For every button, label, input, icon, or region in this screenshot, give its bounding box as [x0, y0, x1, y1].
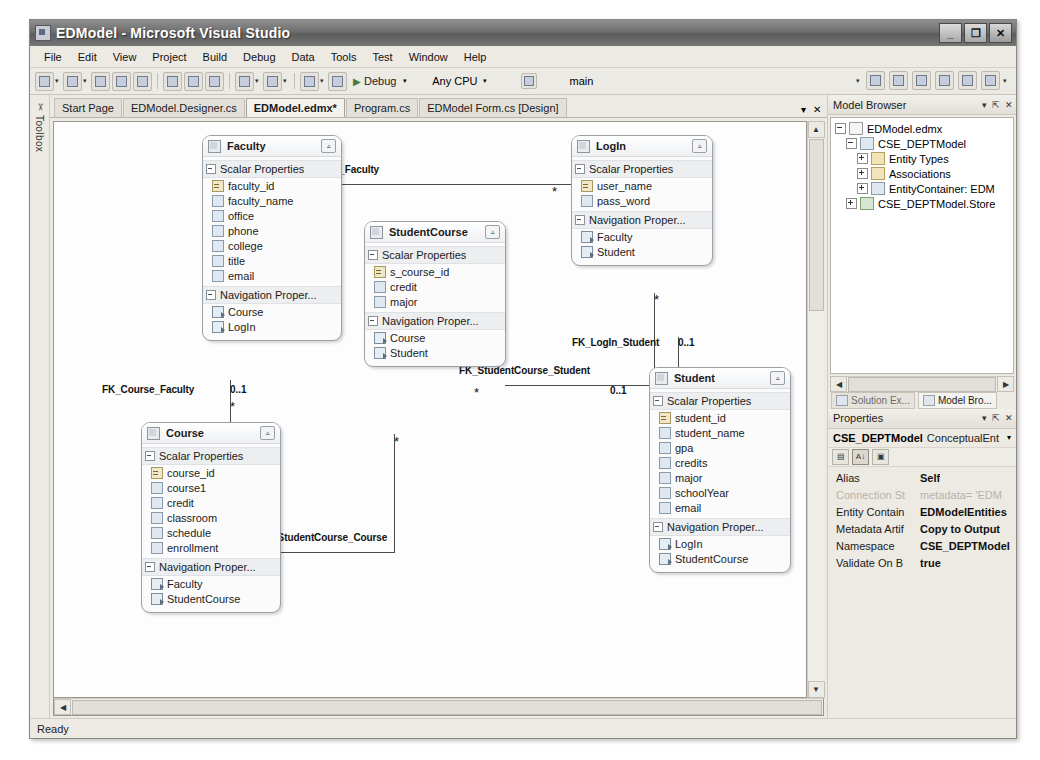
navigate-back-icon[interactable] — [300, 72, 319, 91]
close-icon[interactable]: ✕ — [1005, 100, 1013, 110]
property-value[interactable]: Copy to Output — [920, 523, 1000, 535]
chevron-left-icon[interactable]: ◀ — [830, 376, 847, 392]
menu-edit[interactable]: Edit — [70, 49, 105, 65]
scalar-property-row[interactable]: course1 — [142, 480, 280, 495]
entity-box-studentcourse[interactable]: StudentCourse▵Scalar Propertiess_course_… — [364, 221, 506, 367]
scalar-property-row[interactable]: student_id — [650, 410, 790, 425]
expand-icon[interactable] — [857, 153, 868, 164]
scalar-property-row[interactable]: title — [203, 253, 341, 268]
dock-tab-model-browser[interactable]: Model Bro... — [918, 392, 997, 409]
chevron-down-icon[interactable]: ▾ — [982, 413, 987, 423]
solution-explorer-icon[interactable] — [866, 71, 885, 90]
property-row[interactable]: NamespaceCSE_DEPTModel — [828, 538, 1016, 555]
property-pages-icon[interactable]: ▣ — [872, 449, 889, 465]
navigation-property-row[interactable]: StudentCourse — [142, 591, 280, 606]
scalar-property-row[interactable]: course_id — [142, 465, 280, 480]
collapse-icon[interactable] — [846, 138, 857, 149]
menu-test[interactable]: Test — [364, 49, 400, 65]
scalar-property-row[interactable]: student_name — [650, 425, 790, 440]
menu-tools[interactable]: Tools — [323, 49, 365, 65]
scalar-property-row[interactable]: schedule — [142, 525, 280, 540]
expand-icon[interactable] — [857, 183, 868, 194]
paste-icon[interactable] — [205, 72, 224, 91]
entity-box-login[interactable]: LogIn▵Scalar Propertiesuser_namepass_wor… — [571, 135, 713, 266]
collapse-toggle-icon[interactable] — [368, 316, 378, 326]
tree-node[interactable]: EntityContainer: EDM — [833, 181, 1011, 196]
collapse-toggle-icon[interactable] — [575, 164, 585, 174]
collapse-toggle-icon[interactable] — [653, 522, 663, 532]
property-value[interactable]: Self — [920, 472, 940, 484]
tab-program-cs[interactable]: Program.cs — [346, 98, 418, 117]
dock-tab-solution-explorer[interactable]: Solution Ex... — [831, 392, 915, 409]
config-selector[interactable]: ▾ main — [480, 72, 596, 90]
scalar-property-row[interactable]: faculty_name — [203, 193, 341, 208]
add-item-dropdown-icon[interactable]: ▾ — [83, 77, 87, 85]
association-label[interactable]: FK_LogIn_Student — [572, 337, 659, 348]
minimize-button[interactable]: _ — [939, 23, 962, 43]
save-all-icon[interactable] — [133, 72, 152, 91]
entity-header[interactable]: Course▵ — [142, 423, 280, 444]
expand-icon[interactable] — [857, 168, 868, 179]
tree-node[interactable]: Associations — [833, 166, 1011, 181]
collapse-toggle-icon[interactable] — [653, 396, 663, 406]
scalar-property-row[interactable]: faculty_id — [203, 178, 341, 193]
designer-vertical-scrollbar[interactable]: ▲ ▼ — [807, 121, 824, 698]
scalar-properties-section[interactable]: Scalar Properties — [650, 392, 790, 410]
redo-icon[interactable] — [263, 72, 282, 91]
navigation-property-row[interactable]: Faculty — [142, 576, 280, 591]
save-icon[interactable] — [112, 72, 131, 91]
start-debug-label[interactable]: Debug — [364, 75, 396, 87]
entity-box-course[interactable]: Course▵Scalar Propertiescourse_idcourse1… — [141, 422, 281, 613]
properties-grid[interactable]: AliasSelfConnection Stmetadata= 'EDMEnti… — [828, 467, 1016, 719]
navigation-properties-section[interactable]: Navigation Proper... — [142, 558, 280, 576]
scalar-property-row[interactable]: gpa — [650, 440, 790, 455]
scalar-properties-section[interactable]: Scalar Properties — [142, 447, 280, 465]
scalar-property-row[interactable]: schoolYear — [650, 485, 790, 500]
scalar-property-row[interactable]: user_name — [572, 178, 712, 193]
collapse-toggle-icon[interactable] — [206, 164, 216, 174]
vertical-scroll-thumb[interactable] — [809, 139, 824, 311]
new-project-icon[interactable] — [35, 72, 54, 91]
scalar-property-row[interactable]: credit — [142, 495, 280, 510]
entity-header[interactable]: Faculty▵ — [203, 136, 341, 157]
pin-icon[interactable]: ⇱ — [992, 413, 1000, 423]
scalar-properties-section[interactable]: Scalar Properties — [365, 246, 505, 264]
entity-header[interactable]: LogIn▵ — [572, 136, 712, 157]
collapse-icon[interactable]: ▵ — [770, 371, 785, 385]
maximize-button[interactable]: ❐ — [964, 23, 987, 43]
navigation-property-row[interactable]: StudentCourse — [650, 551, 790, 566]
association-connector[interactable] — [505, 385, 650, 386]
object-browser-icon[interactable] — [912, 71, 931, 90]
scalar-property-row[interactable]: phone — [203, 223, 341, 238]
collapse-icon[interactable] — [835, 123, 846, 134]
scalar-properties-section[interactable]: Scalar Properties — [203, 160, 341, 178]
navigation-property-row[interactable]: Student — [365, 345, 505, 360]
toolbox-strip[interactable]: ✂ Toolbox — [30, 95, 50, 718]
navigation-property-row[interactable]: Faculty — [572, 229, 712, 244]
association-label[interactable]: FK_Course_Faculty — [102, 384, 194, 395]
menu-build[interactable]: Build — [195, 49, 235, 65]
close-icon[interactable]: ✕ — [1005, 413, 1013, 423]
edm-designer-surface[interactable]: FK_LogIn_Faculty0..1*FK_Course_Faculty0.… — [53, 121, 807, 698]
entity-box-faculty[interactable]: Faculty▵Scalar Propertiesfaculty_idfacul… — [202, 135, 342, 341]
entity-header[interactable]: Student▵ — [650, 368, 790, 389]
chevron-right-icon[interactable]: ▶ — [997, 376, 1014, 392]
properties-object-selector[interactable]: CSE_DEPTModel ConceptualEnt ▾ — [828, 429, 1016, 447]
add-new-item-icon[interactable] — [63, 72, 82, 91]
play-icon[interactable]: ▶ — [353, 76, 361, 87]
scalar-property-row[interactable]: pass_word — [572, 193, 712, 208]
menu-project[interactable]: Project — [144, 49, 194, 65]
tab-start-page[interactable]: Start Page — [54, 98, 122, 117]
close-button[interactable]: ✕ — [989, 23, 1012, 43]
property-row[interactable]: Validate On Btrue — [828, 555, 1016, 572]
collapse-toggle-icon[interactable] — [145, 562, 155, 572]
close-icon[interactable]: ✕ — [813, 104, 821, 115]
scroll-up-icon[interactable]: ▲ — [808, 121, 825, 138]
scalar-property-row[interactable]: credits — [650, 455, 790, 470]
navigation-properties-section[interactable]: Navigation Proper... — [650, 518, 790, 536]
property-value[interactable]: true — [920, 557, 941, 569]
new-project-dropdown-icon[interactable]: ▾ — [55, 77, 59, 85]
toolbar-overflow-icon[interactable]: ▾ — [856, 77, 860, 85]
property-row[interactable]: Connection Stmetadata= 'EDM — [828, 487, 1016, 504]
output-window-icon[interactable] — [981, 71, 1000, 90]
